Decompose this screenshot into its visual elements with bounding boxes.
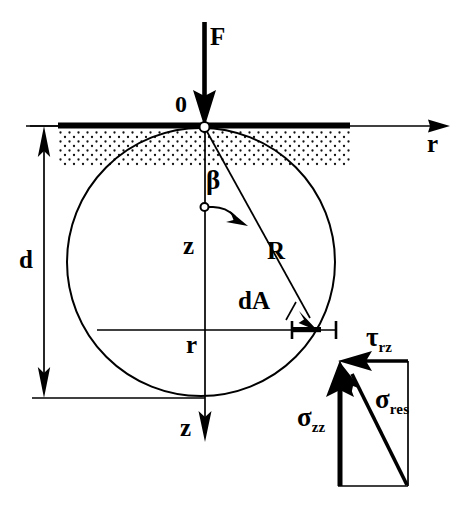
label-origin-0: 0 [175,92,187,116]
beta-angle-arc [205,207,248,226]
sigma-zz-symbol: σ [297,402,312,432]
subsurface-hatch-band [58,130,350,166]
label-depth-d: d [19,247,33,272]
tau-subscript: rz [378,339,392,355]
label-radius-R: R [267,238,285,263]
label-tau-rz: τrz [366,324,392,355]
label-sigma-zz: σzz [297,404,325,435]
dA-leader-line [286,302,296,320]
stress-triangle [326,351,408,486]
tau-symbol: τ [366,322,378,352]
stress-bulb-circle [67,128,335,396]
sigma-zz-subscript: zz [312,419,326,435]
diagram-canvas [0,0,466,506]
label-area-element-dA: dA [238,288,270,313]
label-z-mid: z [183,233,194,258]
sigma-res-symbol: σ [375,384,390,414]
dA-element-bar [292,327,321,332]
depth-dimension-d [26,126,205,398]
label-r-axis: r [427,131,438,156]
label-force-F: F [210,24,225,49]
sigma-res-subscript: res [390,401,409,417]
label-beta-angle: β [206,167,220,194]
label-sigma-res: σres [375,386,409,417]
technical-diagram: F 0 r β d z R dA r z τrz σres σzz [0,0,466,506]
label-r-dimension: r [186,332,197,357]
label-z-bottom: z [180,415,191,440]
circle-center-marker [201,203,209,211]
origin-point-marker [200,122,210,132]
